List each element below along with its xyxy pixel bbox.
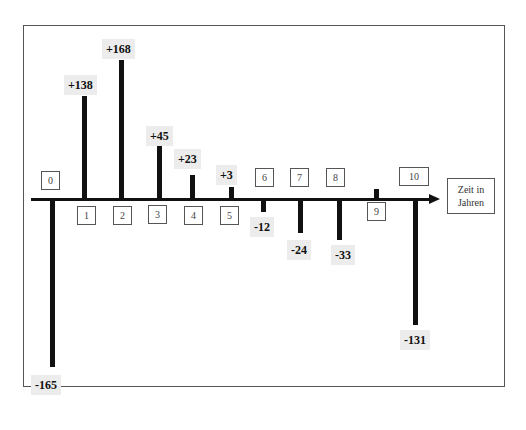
period-box-6: 6	[255, 168, 274, 187]
value-label-7: -24	[287, 240, 311, 260]
axis-arrow-icon	[429, 194, 440, 204]
cashflow-bar-5	[229, 187, 234, 199]
period-box-3: 3	[148, 205, 167, 224]
value-label-8: -33	[331, 245, 355, 265]
cashflow-bar-7	[298, 200, 303, 233]
cashflow-bar-6	[261, 200, 266, 212]
axis-label: Zeit in Jahren	[447, 178, 495, 214]
period-box-7: 7	[290, 168, 309, 187]
period-box-10: 10	[399, 167, 429, 186]
cashflow-bar-4	[190, 175, 195, 199]
period-box-8: 8	[326, 168, 345, 187]
cashflow-bar-2	[119, 60, 124, 199]
period-box-0: 0	[41, 171, 60, 190]
value-label-3: +45	[146, 126, 173, 146]
period-box-4: 4	[184, 206, 203, 225]
cashflow-bar-1	[82, 96, 87, 199]
period-box-5: 5	[220, 206, 239, 225]
cashflow-bar-9	[374, 189, 379, 199]
cashflow-bar-10	[413, 200, 418, 325]
value-label-2: +168	[102, 39, 135, 59]
value-label-4: +23	[174, 149, 201, 169]
value-label-1: +138	[64, 75, 97, 95]
cashflow-bar-0	[50, 200, 55, 367]
value-label-5: +3	[216, 165, 237, 185]
period-box-1: 1	[77, 206, 96, 225]
period-box-9: 9	[367, 202, 386, 221]
value-label-6: -12	[250, 217, 274, 237]
period-box-2: 2	[113, 206, 132, 225]
value-label-0: -165	[31, 375, 61, 395]
cashflow-bar-8	[337, 200, 342, 240]
value-label-10: -131	[400, 330, 430, 350]
cashflow-bar-3	[157, 146, 162, 199]
